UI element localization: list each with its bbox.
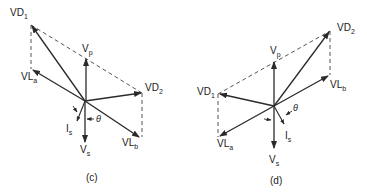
label-vd1-c: VD1 <box>10 8 28 19</box>
label-vs-d: Vs <box>269 155 279 166</box>
phasor-is <box>274 106 284 124</box>
caption-d: (d) <box>270 175 282 186</box>
phasor-vla <box>220 106 274 136</box>
label-vd2-c: VD2 <box>145 83 163 94</box>
phasor-vlb <box>274 76 328 106</box>
label-vla-c: VLa <box>21 72 37 83</box>
phasor-vd1 <box>220 94 274 106</box>
phasor-vla <box>33 70 85 101</box>
label-vlb-d: VLb <box>330 80 346 91</box>
label-vlb-c: VLb <box>122 138 138 149</box>
angle-tick-vs <box>264 119 271 120</box>
label-vp-c: Vp <box>82 44 93 55</box>
phasor-vd2 <box>274 32 329 106</box>
label-theta-d: θ <box>293 103 298 113</box>
phasor-diagrams <box>0 0 367 192</box>
label-vd1-d: VD1 <box>197 87 215 98</box>
phasor-vd2 <box>85 93 141 101</box>
angle-tick-is <box>286 111 292 115</box>
phasor-vd1 <box>32 26 85 101</box>
caption-c: (c) <box>86 172 98 183</box>
label-vd2-d: VD2 <box>337 23 355 34</box>
label-vla-d: VLa <box>217 139 233 150</box>
label-vs-c: Vs <box>80 145 90 156</box>
label-vp-d: Vp <box>270 46 281 57</box>
angle-tick-is <box>73 106 77 112</box>
label-is-c: Is <box>66 124 72 135</box>
label-is-d: Is <box>285 131 291 142</box>
phasor-is <box>77 101 85 121</box>
label-theta-c: θ <box>96 114 101 124</box>
